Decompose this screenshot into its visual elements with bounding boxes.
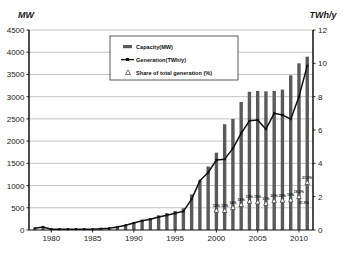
generation-point-2009 <box>290 118 292 120</box>
bar-1999 <box>206 166 209 230</box>
y-tick-label-right-10: 10 <box>318 59 327 68</box>
generation-point-2010 <box>298 96 300 98</box>
share-label-2007: 20% <box>271 194 279 198</box>
y-tick-label-left-2000: 2000 <box>7 137 25 146</box>
generation-point-1996 <box>182 210 184 212</box>
share-label-2008: 20% <box>279 194 287 198</box>
y-axis-label-left: MW <box>18 10 35 20</box>
share-label-2001: 12% <box>221 204 229 208</box>
y-tick-label-left-4500: 4500 <box>7 26 25 35</box>
generation-point-1990 <box>133 222 135 224</box>
bar-2000 <box>215 153 218 230</box>
generation-point-1992 <box>149 218 151 220</box>
generation-point-1994 <box>166 214 168 216</box>
legend-label-generation: Generation(TWh/y) <box>136 57 186 63</box>
y-tick-label-left-2500: 2500 <box>7 115 25 124</box>
generation-point-1989 <box>124 224 126 226</box>
y-tick-label-left-0: 0 <box>20 226 25 235</box>
y-tick-label-right-8: 8 <box>318 93 323 102</box>
y-tick-label-left-4000: 4000 <box>7 48 25 57</box>
legend-point-generation <box>126 58 129 61</box>
bar-2004 <box>248 92 251 230</box>
share-label-2003: 16% <box>238 198 246 202</box>
generation-point-1987 <box>108 227 110 229</box>
legend-label-capacity: Capacity(MW) <box>136 44 173 50</box>
bar-2003 <box>239 102 242 230</box>
generation-point-1993 <box>158 216 160 218</box>
y-tick-label-left-1500: 1500 <box>7 159 25 168</box>
bar-2008 <box>281 90 284 230</box>
bar-2002 <box>231 119 234 230</box>
share-label-2002: 14% <box>229 201 237 205</box>
share-label-2004: 19% <box>246 195 254 199</box>
x-tick-label-2005: 2005 <box>249 234 267 243</box>
legend-swatch-capacity <box>123 45 132 48</box>
bar-2006 <box>264 91 267 230</box>
capacity-generation-chart: MW TWh/y 12%12%14%16%19%19%17%20%20%19%1… <box>0 0 349 259</box>
generation-point-2003 <box>240 132 242 134</box>
share-label-2000: 12% <box>213 204 221 208</box>
y-tick-label-right-6: 6 <box>318 126 323 135</box>
x-tick-label-2000: 2000 <box>208 234 226 243</box>
y-tick-label-right-12: 12 <box>318 26 327 35</box>
y-tick-label-right-4: 4 <box>318 159 323 168</box>
generation-point-1997 <box>191 198 193 200</box>
generation-point-1988 <box>116 226 118 228</box>
x-tick-label-2010: 2010 <box>290 234 308 243</box>
bar-2005 <box>256 91 259 230</box>
y-tick-label-left-3000: 3000 <box>7 93 25 102</box>
generation-point-2005 <box>257 119 259 121</box>
y-tick-label-left-3500: 3500 <box>7 70 25 79</box>
generation-point-2011 <box>306 65 308 67</box>
share-label-2005: 19% <box>254 195 262 199</box>
x-tick-label-1980: 1980 <box>42 234 60 243</box>
x-tick-label-1990: 1990 <box>125 234 143 243</box>
share-label-extra-0: 21.9% <box>299 201 310 205</box>
y-tick-label-left-1000: 1000 <box>7 182 25 191</box>
generation-point-1999 <box>207 171 209 173</box>
share-label-2011: 21.9% <box>302 176 313 180</box>
bar-2009 <box>289 75 292 230</box>
generation-point-2008 <box>281 114 283 116</box>
generation-point-2002 <box>232 147 234 149</box>
share-label-2010: 18.2% <box>294 190 305 194</box>
chart-container: MW TWh/y 12%12%14%16%19%19%17%20%20%19%1… <box>0 0 349 259</box>
y-tick-label-right-0: 0 <box>318 226 323 235</box>
generation-point-1979 <box>42 226 44 228</box>
generation-point-2001 <box>224 158 226 160</box>
share-label-2006: 17% <box>262 197 270 201</box>
y-tick-label-right-2: 2 <box>318 193 323 202</box>
generation-point-2004 <box>248 120 250 122</box>
bar-2007 <box>273 91 276 230</box>
generation-point-2000 <box>215 159 217 161</box>
generation-point-2006 <box>265 128 267 130</box>
legend-label-share: Share of total generation (%) <box>136 70 212 76</box>
y-tick-label-left-500: 500 <box>11 204 25 213</box>
x-tick-label-1995: 1995 <box>166 234 184 243</box>
legend-item-share[interactable]: Share of total generation (%) <box>126 70 213 76</box>
generation-point-1978 <box>34 227 36 229</box>
generation-point-1991 <box>141 220 143 222</box>
generation-point-1995 <box>174 212 176 214</box>
chart-legend[interactable]: Capacity(MW)Generation(TWh/y)Share of to… <box>110 36 238 80</box>
generation-point-1998 <box>199 180 201 182</box>
x-tick-label-1985: 1985 <box>84 234 102 243</box>
bar-1998 <box>198 181 201 230</box>
generation-point-2007 <box>273 112 275 114</box>
y-axis-label-right: TWh/y <box>310 10 338 20</box>
bar-2001 <box>223 124 226 230</box>
